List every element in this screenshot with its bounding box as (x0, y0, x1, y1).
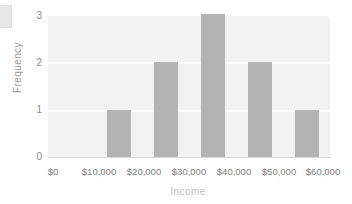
corner-artifact (0, 5, 12, 28)
x-tick-label-3: $30,000 (172, 166, 206, 177)
y-tick-label-1: 1 (24, 105, 42, 115)
x-tick-label-1: $10,000 (82, 166, 116, 177)
x-axis-ticks: $0 $10,000 $20,000 $30,000 $40,000 $50,0… (0, 166, 352, 180)
bars-layer (48, 14, 330, 158)
x-tick-label-2: $20,000 (127, 166, 161, 177)
x-tick-label-6: $60,000 (306, 166, 340, 177)
plot-area (48, 14, 330, 158)
y-axis-title: Frequency (12, 23, 23, 113)
bar-bin-1 (107, 110, 131, 158)
x-axis-title: Income (148, 186, 228, 197)
y-tick-label-3: 3 (24, 11, 42, 21)
x-axis-baseline (48, 157, 331, 158)
x-tick-label-0: $0 (48, 166, 59, 177)
bar-bin-3 (201, 14, 225, 158)
x-tick-label-4: $40,000 (217, 166, 251, 177)
y-tick-label-2: 2 (24, 58, 42, 68)
x-tick-label-5: $50,000 (262, 166, 296, 177)
bar-bin-4 (248, 62, 272, 158)
y-tick-label-0: 0 (24, 152, 42, 162)
histogram-chart: 3 2 1 0 Frequency $0 $10,000 $20,000 $30… (0, 0, 352, 204)
bar-bin-2 (154, 62, 178, 158)
bar-bin-5 (295, 110, 319, 158)
